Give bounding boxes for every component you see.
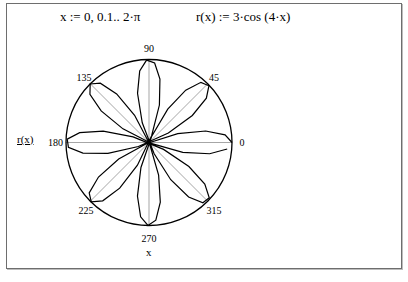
angle-tick-45: 45 xyxy=(209,72,219,83)
angle-tick-315: 315 xyxy=(207,205,222,216)
angle-tick-0: 0 xyxy=(240,137,245,148)
angle-tick-90: 90 xyxy=(144,43,154,54)
angle-tick-225: 225 xyxy=(79,205,94,216)
radial-axis-label[interactable]: r(x) xyxy=(17,133,34,145)
angle-axis-label[interactable]: x xyxy=(146,246,152,258)
angle-tick-135: 135 xyxy=(77,72,92,83)
angle-tick-270: 270 xyxy=(142,233,157,244)
polar-plot[interactable]: 04590135180225270315 xyxy=(0,0,408,282)
angle-tick-180: 180 xyxy=(48,137,63,148)
